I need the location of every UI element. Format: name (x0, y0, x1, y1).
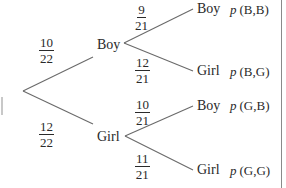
outcome-label: (G,B) (240, 98, 270, 113)
p-symbol: p (230, 98, 237, 113)
denominator: 21 (136, 167, 149, 181)
fraction-girl-then-boy: 10 21 (135, 98, 150, 127)
node-first-boy: Boy (97, 38, 120, 52)
denominator: 22 (40, 135, 53, 149)
numerator: 12 (135, 56, 150, 71)
denominator: 22 (40, 51, 53, 65)
node-girl-then-girl: Girl (197, 163, 220, 177)
p-symbol: p (230, 2, 237, 17)
fraction-first-boy: 10 22 (39, 36, 54, 65)
node-boy-then-boy: Boy (197, 2, 220, 16)
outcome-label: (G,G) (240, 163, 271, 178)
fraction-boy-then-girl: 12 21 (135, 56, 150, 85)
outcome-gb: p(G,B) (230, 98, 269, 114)
p-symbol: p (230, 163, 237, 178)
outcome-label: (B,B) (240, 2, 269, 17)
node-boy-then-girl: Girl (197, 64, 220, 78)
fraction-boy-then-boy: 9 21 (135, 3, 148, 32)
numerator: 12 (39, 120, 54, 135)
left-edge-mark (1, 97, 3, 115)
outcome-bb: p(B,B) (230, 2, 269, 18)
denominator: 21 (135, 18, 148, 32)
outcome-gg: p(G,G) (230, 163, 270, 179)
numerator: 10 (39, 36, 54, 51)
node-girl-then-boy: Boy (197, 99, 220, 113)
numerator: 10 (135, 98, 150, 113)
outcome-label: (B,G) (240, 64, 270, 79)
denominator: 21 (136, 113, 149, 127)
numerator: 11 (135, 152, 150, 167)
p-symbol: p (230, 64, 237, 79)
numerator: 9 (137, 3, 146, 18)
node-first-girl: Girl (97, 130, 120, 144)
outcome-bg: p(B,G) (230, 64, 269, 80)
right-border-line (281, 0, 282, 188)
branch-root-to-girl (23, 91, 93, 124)
branch-root-to-boy (23, 57, 93, 91)
fraction-girl-then-girl: 11 21 (135, 152, 150, 181)
fraction-first-girl: 12 22 (39, 120, 54, 149)
denominator: 21 (136, 71, 149, 85)
